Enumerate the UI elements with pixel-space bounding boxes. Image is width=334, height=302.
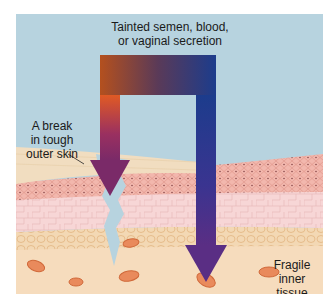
- arrow-right-shaft: [196, 95, 216, 245]
- diagram-panel: Tainted semen, blood, or vaginal secreti…: [16, 14, 323, 294]
- source-label: Tainted semen, blood, or vaginal secreti…: [100, 20, 240, 48]
- arrow-left-shaft: [100, 95, 120, 160]
- inner-tissue-label: Fragile inner tissue: [264, 258, 320, 294]
- arrow-top-bar: [100, 55, 216, 95]
- break-label: A break in tough outer skin: [18, 119, 86, 161]
